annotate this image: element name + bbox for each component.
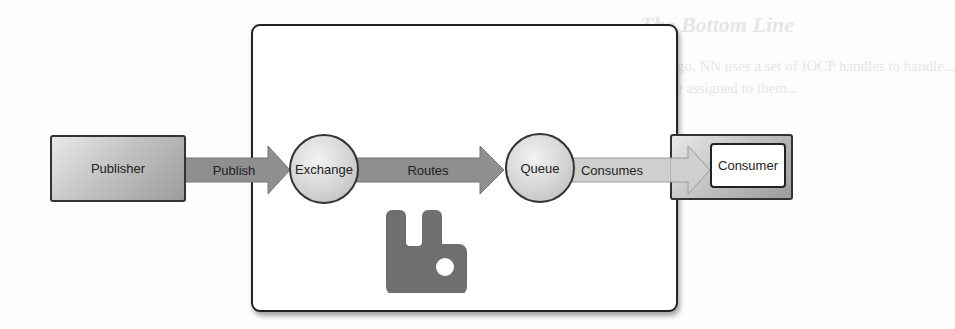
consumes-arrow-head	[670, 144, 714, 196]
publish-label: Publish	[213, 163, 256, 178]
rabbitmq-logo-icon	[386, 210, 467, 293]
exchange-node: Exchange	[289, 134, 359, 204]
consumes-label: Consumes	[581, 163, 643, 178]
queue-label: Queue	[520, 161, 559, 176]
routes-label: Routes	[407, 163, 448, 178]
consumer-label: Consumer	[718, 158, 778, 173]
exchange-label: Exchange	[295, 162, 353, 177]
publisher-node: Publisher	[50, 135, 186, 202]
consumer-node: Consumer	[710, 143, 786, 188]
publisher-label: Publisher	[91, 161, 145, 176]
queue-node: Queue	[505, 133, 575, 203]
